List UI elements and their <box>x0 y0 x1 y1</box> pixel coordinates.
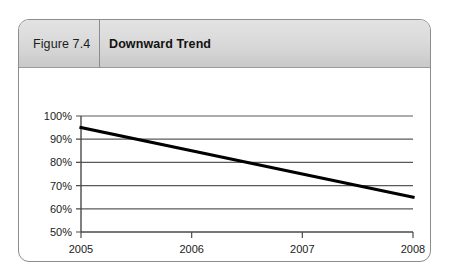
header-divider <box>99 20 100 67</box>
line-chart: 50%60%70%80%90%100% 2005200620072008 <box>19 69 431 262</box>
y-axis-tick-label: 60% <box>50 203 72 215</box>
screenshot-root: Figure 7.4 Downward Trend 50%60%70%80%90… <box>0 0 455 272</box>
x-axis-tick-label: 2007 <box>290 243 314 255</box>
figure-header-inner: Figure 7.4 Downward Trend <box>19 20 430 67</box>
y-axis-tick-label: 100% <box>44 110 72 122</box>
figure-number-label: Figure 7.4 <box>33 20 90 67</box>
figure-title: Downward Trend <box>109 20 211 67</box>
y-axis-tick-labels: 50%60%70%80%90%100% <box>44 110 72 238</box>
y-axis-tick-label: 50% <box>50 226 72 238</box>
x-axis-tick-label: 2005 <box>69 243 93 255</box>
y-axis-tick-label: 90% <box>50 133 72 145</box>
x-axis-tick-labels: 2005200620072008 <box>69 243 425 255</box>
x-axis-tick-label: 2006 <box>179 243 203 255</box>
figure-header: Figure 7.4 Downward Trend <box>19 20 430 68</box>
x-axis-tick-label: 2008 <box>401 243 425 255</box>
figure-card: Figure 7.4 Downward Trend 50%60%70%80%90… <box>18 19 431 262</box>
y-axis-ticks <box>76 116 81 232</box>
y-axis-tick-label: 80% <box>50 156 72 168</box>
x-axis-ticks <box>81 232 413 238</box>
chart-area: 50%60%70%80%90%100% 2005200620072008 <box>19 69 431 262</box>
y-axis-tick-label: 70% <box>50 180 72 192</box>
